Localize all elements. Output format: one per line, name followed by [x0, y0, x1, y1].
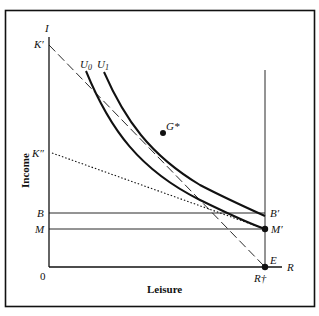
k-double-prime-label: K″ [31, 147, 44, 159]
indifference-curve-u0 [86, 71, 265, 229]
leisure-income-diagram: I R 0 K′ K″ B M B′ M′ E R† U0 U1 G* Inco… [0, 0, 319, 316]
m-prime-point [262, 226, 268, 232]
m-prime-label: M′ [270, 223, 283, 235]
u0-label: U0 [80, 58, 92, 72]
r-dagger-label: R† [253, 272, 267, 284]
x-axis-symbol: R [286, 261, 294, 273]
k-prime-label: K′ [33, 38, 44, 50]
y-axis-title: Income [19, 153, 31, 188]
budget-line-k-prime [49, 45, 265, 267]
y-axis-symbol: I [44, 22, 50, 34]
budget-line-k-double-prime [52, 153, 265, 229]
b-label: B [37, 207, 44, 219]
b-prime-label: B′ [270, 207, 280, 219]
m-label: M [34, 223, 45, 235]
u1-label: U1 [97, 58, 109, 72]
origin-label: 0 [40, 270, 46, 282]
x-axis-title: Leisure [147, 283, 182, 295]
e-point [262, 264, 268, 270]
g-star-label: G* [166, 120, 180, 132]
e-label: E [269, 254, 277, 266]
